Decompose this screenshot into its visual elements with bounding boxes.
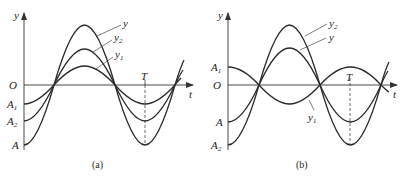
y-axis-label: y (217, 9, 223, 21)
y-axis-label: y (13, 9, 19, 21)
label-y: y (328, 31, 334, 43)
tick-A1: A1 (210, 61, 221, 75)
label-y: y (122, 17, 128, 29)
label-y1: y1 (114, 48, 123, 62)
period-label: T (141, 70, 148, 82)
leader-y1 (309, 100, 314, 110)
tick-A2: A2 (6, 115, 18, 129)
tick-A1: A1 (6, 98, 17, 112)
tick-A: A (11, 139, 19, 151)
t-axis-label: t (393, 88, 397, 100)
caption-b: (b) (296, 159, 308, 171)
panel-a: y y2 y1 y t O T A1 A2 A (a) (6, 9, 193, 171)
origin-label: O (213, 79, 221, 91)
leader-y1 (96, 57, 113, 69)
label-y2: y2 (328, 17, 338, 31)
wave-superposition-figure: y y2 y1 y t O T A1 A2 A (a) y2 y y1 y t (0, 0, 406, 177)
leader-y2 (305, 24, 327, 36)
origin-label: O (9, 79, 17, 91)
caption-a: (a) (92, 159, 103, 171)
t-axis-label: t (189, 88, 193, 100)
label-y2: y2 (113, 31, 123, 45)
label-y1: y1 (307, 111, 316, 125)
period-label: T (346, 71, 353, 83)
leader-y2 (93, 40, 112, 52)
tick-A: A (215, 116, 223, 128)
panel-b: y2 y y1 y t O T A1 A A2 (b) (210, 9, 397, 171)
tick-A2: A2 (210, 139, 222, 153)
